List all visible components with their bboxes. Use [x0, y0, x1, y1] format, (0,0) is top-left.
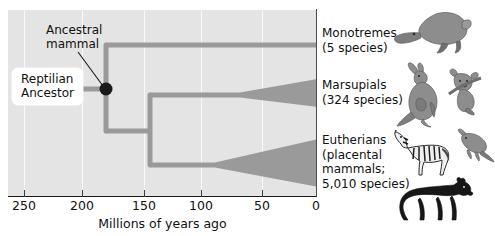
axis-tick-label-50: 50	[242, 198, 282, 213]
axis-tick	[24, 190, 25, 197]
callout-ancestral-mammal: Ancestral mammal	[46, 23, 102, 51]
bear-illustration	[398, 176, 474, 222]
axis-vertical	[316, 9, 317, 197]
axis-tick-label-150: 150	[124, 198, 164, 213]
zebra-illustration	[392, 128, 458, 178]
axis-tick-label-250: 250	[4, 198, 44, 213]
kangaroo-illustration	[395, 62, 451, 128]
wedge-marsupials	[150, 79, 318, 107]
group-label-marsupials: Marsupials (324 species)	[322, 78, 403, 107]
axis-tick	[262, 190, 263, 197]
axis-tick	[82, 190, 83, 197]
wedge-eutherians	[150, 139, 318, 187]
axis-tick-label-200: 200	[62, 198, 102, 213]
platypus-illustration	[392, 8, 474, 56]
node-ancestral-mammal	[100, 83, 113, 96]
koala-illustration	[447, 68, 485, 116]
axis-tick-label-100: 100	[181, 198, 221, 213]
callout-reptilian-ancestor: Reptilian Ancestor	[12, 68, 83, 105]
mouse-illustration	[455, 128, 495, 164]
group-label-monotremes: Monotremes (5 species)	[322, 26, 397, 55]
axis-horizontal	[8, 196, 317, 197]
axis-tick	[201, 190, 202, 197]
axis-tick-label-0: 0	[296, 198, 336, 213]
axis-title: Millions of years ago	[8, 216, 317, 231]
axis-tick	[144, 190, 145, 197]
